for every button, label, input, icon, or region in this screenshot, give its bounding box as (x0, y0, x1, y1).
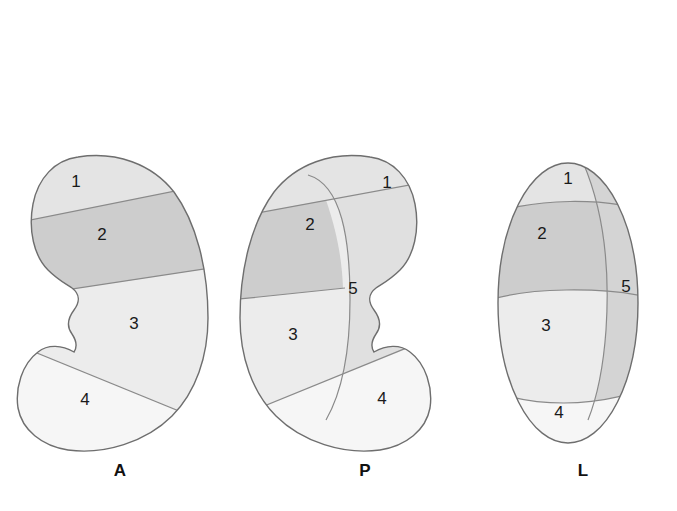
segment-label-1-lateral: 1 (563, 169, 572, 188)
segment-label-2-lateral: 2 (537, 224, 546, 243)
view-panel-posterior: 1 2 3 4 5 P (250, 0, 460, 511)
kidney-segments-figure: 1 2 3 4 A (0, 0, 677, 511)
view-panel-lateral: 1 2 3 4 5 L (460, 0, 677, 511)
segment-label-2-anterior: 2 (97, 225, 106, 244)
view-caption-lateral: L (563, 461, 603, 481)
kidney-diagram-lateral: 1 2 3 4 5 (460, 0, 677, 460)
segment-label-2-posterior: 2 (305, 215, 314, 234)
segment-label-5-posterior: 5 (348, 279, 357, 298)
segment-label-4-posterior: 4 (377, 389, 386, 408)
view-caption-posterior: P (345, 461, 385, 481)
segment-label-3-posterior: 3 (288, 325, 297, 344)
view-caption-anterior: A (100, 461, 140, 481)
segment-label-3-lateral: 3 (541, 316, 550, 335)
segment-label-1-posterior: 1 (382, 173, 391, 192)
segment-label-3-anterior: 3 (129, 314, 138, 333)
kidney-diagram-anterior: 1 2 3 4 (0, 0, 250, 460)
view-panel-anterior: 1 2 3 4 A (0, 0, 250, 511)
kidney-diagram-posterior: 1 2 3 4 5 (250, 0, 460, 460)
segment-label-4-lateral: 4 (554, 403, 563, 422)
segment-label-4-anterior: 4 (80, 390, 89, 409)
segment-label-1-anterior: 1 (71, 172, 80, 191)
segment-label-5-lateral: 5 (621, 277, 630, 296)
